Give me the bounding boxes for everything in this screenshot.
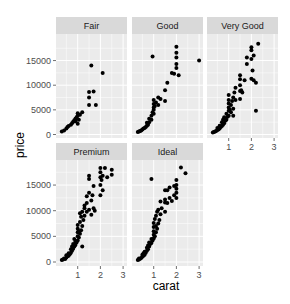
- data-point: [157, 218, 161, 222]
- data-point: [93, 209, 97, 213]
- data-point: [85, 201, 89, 205]
- data-point: [87, 191, 91, 195]
- faceted-scatter-chart: Fair050001000015000GoodVery Good123Premi…: [0, 0, 290, 304]
- data-point: [174, 66, 178, 70]
- data-point: [174, 191, 178, 195]
- facet-panel-ideal: Ideal123: [132, 143, 203, 280]
- data-point: [163, 99, 167, 103]
- facet-strip-label: Premium: [73, 147, 109, 157]
- data-point: [249, 77, 253, 81]
- x-axis-title: carat: [153, 279, 180, 293]
- data-point: [238, 77, 242, 81]
- facet-panel-premium: Premium050001000015000123: [26, 143, 127, 280]
- data-point: [101, 174, 105, 178]
- data-point: [80, 210, 84, 214]
- data-point: [227, 98, 231, 102]
- data-point: [183, 171, 187, 175]
- data-point: [254, 81, 258, 85]
- data-point: [89, 63, 93, 67]
- data-point: [251, 68, 255, 72]
- data-point: [165, 81, 169, 85]
- panel-background: [132, 160, 203, 266]
- data-point: [105, 175, 109, 179]
- data-point: [110, 173, 114, 177]
- x-tick-label: 1: [226, 142, 231, 152]
- data-point: [87, 208, 91, 212]
- data-point: [98, 166, 102, 170]
- data-point: [177, 73, 181, 77]
- data-point: [174, 183, 178, 187]
- data-point: [94, 103, 98, 107]
- data-point: [152, 112, 156, 116]
- data-point: [170, 199, 174, 203]
- data-point: [89, 198, 93, 202]
- x-tick-label: 2: [249, 142, 254, 152]
- data-point: [231, 107, 235, 111]
- data-point: [153, 234, 157, 238]
- data-point: [227, 114, 231, 118]
- facet-strip-label: Ideal: [158, 147, 178, 157]
- data-point: [77, 235, 81, 239]
- y-tick-label: 0: [46, 130, 51, 140]
- y-tick-label: 10000: [26, 206, 51, 216]
- data-point: [163, 210, 167, 214]
- data-point: [98, 170, 102, 174]
- x-tick-label: 3: [197, 270, 202, 280]
- data-point: [151, 55, 155, 59]
- data-point: [245, 56, 249, 60]
- data-point: [110, 168, 114, 172]
- data-point: [238, 73, 242, 77]
- y-axis-title: price: [13, 132, 27, 158]
- data-point: [254, 109, 258, 113]
- data-point: [229, 103, 233, 107]
- data-point: [89, 213, 93, 217]
- data-point: [234, 98, 238, 102]
- x-tick-label: 3: [121, 270, 126, 280]
- data-point: [256, 42, 260, 46]
- facet-panel-very-good: Very Good123: [207, 17, 278, 152]
- data-point: [174, 187, 178, 191]
- data-point: [156, 222, 160, 226]
- data-point: [87, 96, 91, 100]
- data-point: [231, 114, 235, 118]
- data-point: [159, 199, 163, 203]
- data-point: [101, 188, 105, 192]
- data-point: [80, 245, 84, 249]
- data-point: [101, 71, 105, 75]
- data-point: [153, 104, 157, 108]
- data-point: [155, 227, 159, 231]
- data-point: [92, 90, 96, 94]
- data-point: [90, 193, 94, 197]
- y-tick-label: 0: [46, 257, 51, 267]
- data-point: [156, 208, 160, 212]
- data-point: [240, 91, 244, 95]
- data-point: [85, 194, 89, 198]
- y-tick-label: 5000: [31, 231, 51, 241]
- data-point: [83, 214, 87, 218]
- data-point: [230, 99, 234, 103]
- data-point: [76, 122, 80, 126]
- data-point: [87, 103, 91, 107]
- y-tick-label: 15000: [26, 180, 51, 190]
- data-point: [78, 220, 82, 224]
- x-tick-label: 3: [272, 142, 277, 152]
- data-point: [154, 230, 158, 234]
- data-point: [77, 118, 81, 122]
- data-point: [172, 72, 176, 76]
- data-point: [98, 193, 102, 197]
- data-point: [232, 91, 236, 95]
- data-point: [156, 103, 160, 107]
- data-point: [160, 206, 164, 210]
- data-point: [229, 110, 233, 114]
- data-point: [174, 45, 178, 49]
- data-point: [174, 56, 178, 60]
- data-point: [87, 177, 91, 181]
- x-tick-label: 2: [98, 270, 103, 280]
- data-point: [179, 166, 183, 170]
- x-tick-label: 1: [75, 270, 80, 280]
- y-tick-label: 5000: [31, 105, 51, 115]
- data-point: [149, 118, 153, 122]
- data-point: [103, 166, 107, 170]
- data-point: [165, 201, 169, 205]
- data-point: [168, 186, 172, 190]
